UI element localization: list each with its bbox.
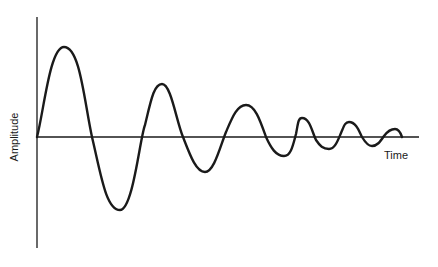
damped-wave-chart <box>0 0 438 267</box>
y-axis-label: Amplitude <box>8 113 20 162</box>
wave-line <box>37 47 402 210</box>
x-axis-label: Time <box>384 149 408 161</box>
